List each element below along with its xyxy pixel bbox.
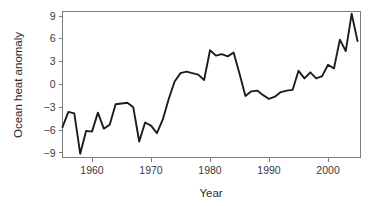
chart-container: Ocean heat anomaly Year −9−6−30369 19601… bbox=[0, 0, 378, 206]
x-tick-label: 2000 bbox=[316, 164, 340, 176]
x-tick-label: 1970 bbox=[139, 164, 163, 176]
y-tick-label: −9 bbox=[44, 147, 56, 159]
line-chart: Ocean heat anomaly Year −9−6−30369 19601… bbox=[0, 0, 378, 206]
y-tick-label: −3 bbox=[44, 101, 56, 113]
y-tick-label: −6 bbox=[44, 124, 56, 136]
y-tick-label: 9 bbox=[50, 10, 56, 22]
series-line bbox=[63, 14, 358, 154]
x-tick-label: 1960 bbox=[80, 164, 104, 176]
y-tick-label: 3 bbox=[50, 55, 56, 67]
x-axis-title: Year bbox=[199, 187, 222, 199]
x-tick-label: 1980 bbox=[198, 164, 222, 176]
y-tick-label: 0 bbox=[50, 78, 56, 90]
series-group bbox=[63, 14, 358, 154]
x-tick-label: 1990 bbox=[257, 164, 281, 176]
y-tick-label: 6 bbox=[50, 32, 56, 44]
plot-frame bbox=[63, 12, 361, 158]
x-axis-ticks: 19601970198019902000 bbox=[80, 158, 340, 176]
y-axis-title: Ocean heat anomaly bbox=[12, 32, 24, 138]
y-axis-ticks: −9−6−30369 bbox=[44, 10, 63, 159]
